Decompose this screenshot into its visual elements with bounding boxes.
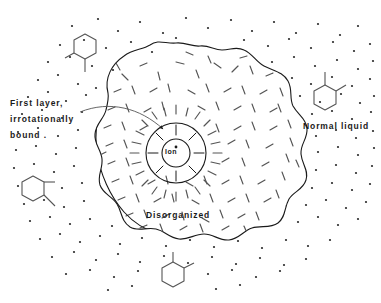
molecule-left: [22, 176, 55, 206]
label-disorganized: Disorganized: [146, 211, 210, 220]
label-first-layer-line3: bound .: [10, 131, 47, 140]
ion-solvation-diagram: First layer, irrotationally bound . Norm…: [0, 0, 381, 303]
label-ion: Ion: [165, 148, 177, 155]
label-first-layer-line2: irrotationally: [10, 115, 74, 124]
diagram-canvas: [0, 0, 381, 303]
molecule-right: [314, 72, 346, 110]
label-normal-liquid: Normal liquid: [303, 122, 369, 131]
molecule-bottom: [162, 252, 194, 287]
label-first-layer-line1: First layer,: [10, 99, 63, 108]
first-layer-leader-line: [80, 106, 163, 129]
